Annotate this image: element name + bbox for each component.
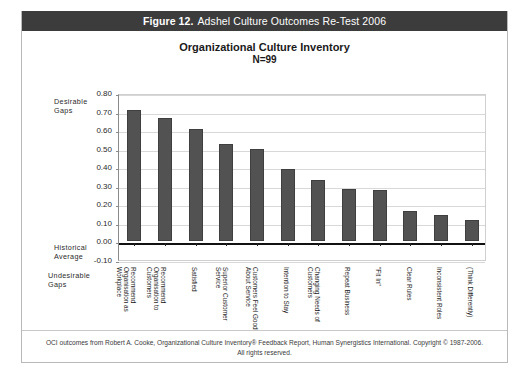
x-axis-category-label: (Think Differently) — [467, 267, 474, 317]
x-axis-tick-mark — [410, 243, 411, 246]
x-axis-label-line: Service — [214, 267, 221, 321]
bar — [250, 149, 264, 242]
x-axis-tick-mark — [196, 243, 197, 246]
y-axis-tick-label: 0.70 — [82, 108, 112, 117]
x-axis-category-label: Inconsistent Roles — [436, 267, 443, 319]
footer-line-1: OCI outcomes from Robert A. Cooke, Organ… — [22, 338, 507, 348]
bar — [127, 110, 141, 242]
y-axis-tick-label: 0.60 — [82, 126, 112, 135]
x-axis-category-label: "Fit In" — [375, 267, 382, 286]
y-axis-tick-mark — [116, 225, 119, 226]
y-axis-tick-mark — [116, 262, 119, 263]
x-axis-tick-mark — [380, 243, 381, 246]
y-axis-tick-label: 0.10 — [82, 219, 112, 228]
x-axis-category-label: Clear Rules — [405, 267, 412, 300]
x-axis-label-line: Organisation as — [122, 267, 129, 312]
chart-area: Organizational Culture Inventory N=99 De… — [22, 31, 507, 331]
gridline — [119, 188, 485, 189]
gridline — [119, 151, 485, 152]
bar — [465, 220, 479, 241]
x-axis-label-line: "Fit In" — [375, 267, 382, 286]
x-axis-label-line: Workplace — [115, 267, 122, 312]
y-axis-tick-mark — [116, 95, 119, 96]
x-axis-category-label: RecommendOrganisation toCustomers — [146, 267, 168, 310]
x-axis-tick-mark — [441, 243, 442, 246]
bar — [158, 118, 172, 241]
x-axis-tick-mark — [134, 243, 135, 246]
x-axis-category-label: Intention to Stay — [283, 267, 290, 313]
x-axis-tick-mark — [318, 243, 319, 246]
gridline — [119, 206, 485, 207]
y-axis-tick-label: 0.20 — [82, 200, 112, 209]
bar — [434, 215, 448, 241]
x-axis-label-line: Organisation to — [153, 267, 160, 310]
bar — [189, 129, 203, 241]
x-axis-tick-mark — [288, 243, 289, 246]
y-axis-tick-mark — [116, 151, 119, 152]
gridline — [119, 114, 485, 115]
y-axis-tick-mark — [116, 132, 119, 133]
gridline — [119, 169, 485, 170]
bar — [219, 144, 233, 241]
x-axis-category-label: Changing Needs ofCustomers — [306, 267, 320, 322]
y-axis-tick-mark — [116, 114, 119, 115]
plot-box — [118, 94, 486, 261]
bar — [281, 169, 295, 241]
plot-wrapper: Desirable Gaps Historical Average Undesi… — [22, 31, 507, 331]
bar — [373, 190, 387, 241]
figure-title-bar: Figure 12. Adshel Culture Outcomes Re-Te… — [22, 11, 507, 31]
historical-average-baseline — [119, 243, 485, 245]
figure-footer: OCI outcomes from Robert A. Cooke, Organ… — [22, 330, 507, 362]
x-axis-label-line: (Think Differently) — [467, 267, 474, 317]
y-axis-tick-label: -0.10 — [82, 256, 112, 265]
bar — [311, 180, 325, 241]
x-axis-tick-mark — [226, 243, 227, 246]
y-axis-tick-label: 0.40 — [82, 163, 112, 172]
x-axis-label-line: Clear Rules — [405, 267, 412, 300]
x-axis-label-line: Repeat Business — [344, 267, 351, 315]
bar — [342, 189, 356, 242]
x-axis-label-line: Intention to Stay — [283, 267, 290, 313]
y-axis-tick-mark — [116, 188, 119, 189]
footer-line-2: All rights reserved. — [22, 348, 507, 358]
gridline — [119, 95, 485, 96]
x-axis-label-line: Recommend — [129, 267, 136, 312]
annotation-undesirable-line2: Gaps — [48, 280, 114, 289]
y-axis-tick-label: 0.30 — [82, 182, 112, 191]
x-axis-label-line: Customers Feel Good — [252, 267, 259, 330]
x-axis-category-label: Superior CustomerService — [214, 267, 228, 321]
gridline — [119, 262, 485, 263]
figure-container: Figure 12. Adshel Culture Outcomes Re-Te… — [21, 11, 508, 363]
x-axis-tick-mark — [349, 243, 350, 246]
gridline — [119, 225, 485, 226]
figure-caption: Adshel Culture Outcomes Re-Test 2006 — [198, 15, 387, 27]
x-axis-category-label: Customers Feel GoodAbout Service — [245, 267, 259, 330]
y-axis-tick-mark — [116, 206, 119, 207]
y-axis-tick-label: 0.50 — [82, 145, 112, 154]
annotation-undesirable-line1: Undesirable — [48, 271, 114, 280]
figure-number: Figure 12. — [143, 15, 194, 27]
x-axis-category-label: Satisfied — [191, 267, 198, 292]
gridline — [119, 132, 485, 133]
x-axis-category-label: RecommendOrganisation asWorkplace — [115, 267, 137, 312]
x-axis-label-line: Customers — [306, 267, 313, 322]
x-axis-tick-mark — [472, 243, 473, 246]
annotation-undesirable-gaps: Undesirable Gaps — [48, 271, 114, 289]
x-axis-category-label: Repeat Business — [344, 267, 351, 315]
bar — [403, 211, 417, 242]
x-axis-label-line: Changing Needs of — [313, 267, 320, 322]
annotation-desirable-line1: Desirable — [54, 97, 112, 106]
x-axis-label-line: Inconsistent Roles — [436, 267, 443, 319]
x-axis-label-line: Recommend — [160, 267, 167, 310]
y-axis-tick-label: 0.00 — [82, 237, 112, 246]
x-axis-label-line: Superior Customer — [221, 267, 228, 321]
y-axis-tick-label: 0.80 — [82, 89, 112, 98]
x-axis-tick-mark — [257, 243, 258, 246]
x-axis-label-line: Customers — [146, 267, 153, 310]
x-axis-tick-mark — [165, 243, 166, 246]
y-axis-tick-mark — [116, 169, 119, 170]
x-axis-label-line: Satisfied — [191, 267, 198, 292]
x-axis-label-line: About Service — [245, 267, 252, 330]
